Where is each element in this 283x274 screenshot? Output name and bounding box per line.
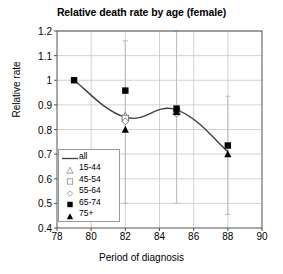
legend-label: 55-64 bbox=[79, 185, 101, 195]
open-square-icon bbox=[61, 173, 79, 184]
legend-item-65-74[interactable]: 65-74 bbox=[59, 196, 119, 208]
data-point-65-74 bbox=[71, 77, 77, 83]
data-point-65-74 bbox=[173, 105, 179, 111]
legend-item-15-44[interactable]: 15-44 bbox=[59, 162, 119, 174]
legend-item-all[interactable]: all bbox=[59, 150, 119, 162]
legend-item-45-54[interactable]: 45-54 bbox=[59, 173, 119, 185]
legend-item-55-64[interactable]: 55-64 bbox=[59, 185, 119, 197]
data-point-65-74 bbox=[225, 142, 231, 148]
legend-item-75plus[interactable]: 75+ bbox=[59, 208, 119, 220]
legend-label: 45-54 bbox=[79, 174, 101, 184]
filled-triangle-icon bbox=[61, 208, 79, 219]
open-triangle-icon bbox=[61, 162, 79, 173]
legend-label: 65-74 bbox=[79, 197, 101, 207]
filled-square-icon bbox=[61, 196, 79, 207]
data-point-65-74 bbox=[122, 87, 128, 93]
plot-area bbox=[0, 0, 283, 274]
legend-label: 75+ bbox=[79, 208, 93, 218]
legend-label: all bbox=[79, 151, 88, 161]
chart-legend: all15-4445-5455-6465-7475+ bbox=[58, 149, 120, 222]
line-icon bbox=[61, 150, 79, 161]
chart-container: Relative death rate by age (female) Rela… bbox=[0, 0, 283, 274]
open-diamond-icon bbox=[61, 185, 79, 196]
legend-label: 15-44 bbox=[79, 162, 101, 172]
